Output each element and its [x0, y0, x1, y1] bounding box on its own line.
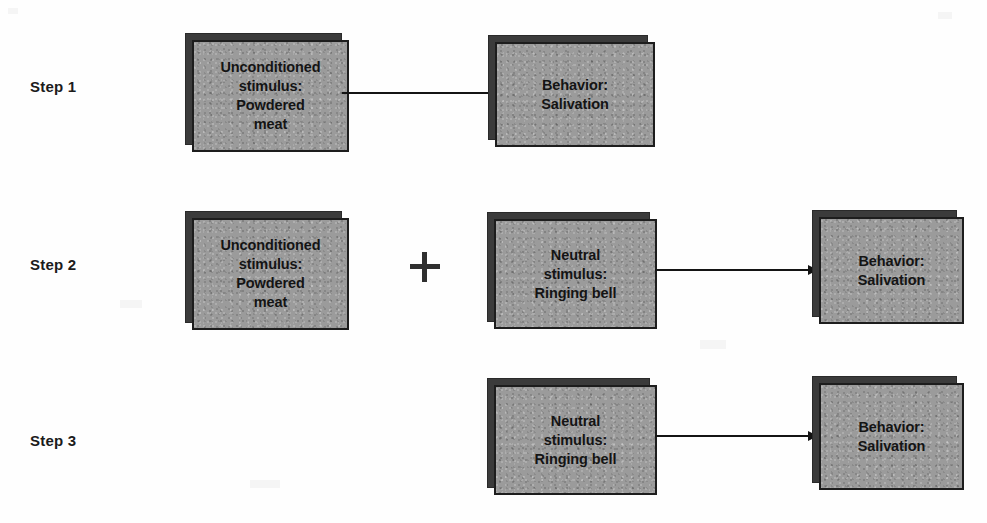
- step-2-unconditioned-stimulus-box: Unconditioned stimulus: Powdered meat: [185, 211, 349, 330]
- scan-artifact: [8, 8, 18, 14]
- step-2-behavior-box: Behavior: Salivation: [812, 210, 964, 324]
- box-text: Unconditioned stimulus: Powdered meat: [216, 58, 324, 134]
- box-text-line: stimulus:: [535, 265, 617, 284]
- step-1-behavior-box: Behavior: Salivation: [488, 35, 655, 147]
- scan-artifact: [250, 480, 280, 488]
- step-3-neutral-stimulus-box: Neutral stimulus: Ringing bell: [487, 378, 657, 495]
- box-face: Unconditioned stimulus: Powdered meat: [192, 40, 349, 152]
- step-3-behavior-box: Behavior: Salivation: [812, 376, 964, 490]
- box-text: Neutral stimulus: Ringing bell: [531, 412, 621, 469]
- box-text-line: meat: [220, 293, 320, 312]
- box-text-line: Neutral: [535, 246, 617, 265]
- arrow-shaft: [655, 269, 809, 271]
- step-3-arrow: [655, 431, 818, 441]
- box-text-line: Salivation: [541, 95, 609, 114]
- box-text: Neutral stimulus: Ringing bell: [531, 246, 621, 303]
- box-face: Unconditioned stimulus: Powdered meat: [192, 218, 349, 330]
- step-2-arrow: [655, 265, 818, 275]
- step-1-label: Step 1: [30, 78, 76, 96]
- scan-artifact: [120, 300, 142, 308]
- scan-artifact: [700, 340, 726, 349]
- step-1-arrow: [342, 88, 498, 98]
- box-text-line: Behavior:: [858, 418, 926, 437]
- plus-operator-icon: [410, 252, 440, 282]
- step-2-neutral-stimulus-box: Neutral stimulus: Ringing bell: [487, 212, 657, 329]
- classical-conditioning-diagram: Step 1 Unconditioned stimulus: Powdered …: [0, 0, 987, 523]
- box-face: Behavior: Salivation: [819, 217, 964, 324]
- box-text-line: stimulus:: [535, 431, 617, 450]
- box-face: Behavior: Salivation: [819, 383, 964, 490]
- box-text-line: Salivation: [858, 271, 926, 290]
- box-text-line: Salivation: [858, 437, 926, 456]
- plus-bar-vertical: [422, 252, 427, 282]
- box-text-line: Ringing bell: [535, 450, 617, 469]
- box-text: Behavior: Salivation: [537, 76, 613, 114]
- box-text-line: Unconditioned: [220, 236, 320, 255]
- box-text-line: stimulus:: [220, 255, 320, 274]
- box-text: Behavior: Salivation: [854, 418, 930, 456]
- box-text: Unconditioned stimulus: Powdered meat: [216, 236, 324, 312]
- box-text-line: meat: [220, 115, 320, 134]
- scan-artifact: [938, 12, 952, 19]
- box-text-line: Ringing bell: [535, 284, 617, 303]
- box-face: Neutral stimulus: Ringing bell: [494, 385, 657, 495]
- box-text-line: Powdered: [220, 274, 320, 293]
- box-text-line: Behavior:: [858, 252, 926, 271]
- box-text-line: Behavior:: [541, 76, 609, 95]
- arrow-shaft: [655, 435, 809, 437]
- box-face: Behavior: Salivation: [495, 42, 655, 147]
- step-3-label: Step 3: [30, 432, 76, 450]
- box-text-line: Neutral: [535, 412, 617, 431]
- box-text: Behavior: Salivation: [854, 252, 930, 290]
- arrow-shaft: [342, 92, 489, 94]
- box-text-line: Powdered: [220, 96, 320, 115]
- box-text-line: Unconditioned: [220, 58, 320, 77]
- box-text-line: stimulus:: [220, 77, 320, 96]
- box-face: Neutral stimulus: Ringing bell: [494, 219, 657, 329]
- step-2-label: Step 2: [30, 256, 76, 274]
- step-1-unconditioned-stimulus-box: Unconditioned stimulus: Powdered meat: [185, 33, 349, 152]
